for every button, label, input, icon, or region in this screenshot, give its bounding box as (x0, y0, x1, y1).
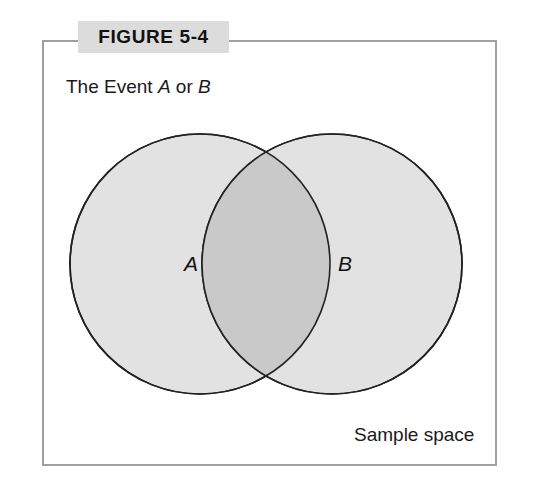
venn-diagram (42, 40, 497, 466)
sample-space-label: Sample space (354, 424, 474, 446)
figure-number-label: FIGURE 5-4 (98, 26, 209, 48)
set-label-a: A (184, 252, 198, 276)
caption-conjunction: or (171, 76, 198, 97)
caption-prefix: The Event (66, 76, 158, 97)
caption-variable-a: A (158, 76, 171, 97)
figure-container: FIGURE 5-4 The Event A or B A B Sample s… (0, 0, 533, 498)
caption-variable-b: B (198, 76, 211, 97)
set-label-b: B (338, 252, 352, 276)
figure-caption: The Event A or B (66, 76, 211, 98)
figure-number-banner: FIGURE 5-4 (78, 21, 229, 53)
